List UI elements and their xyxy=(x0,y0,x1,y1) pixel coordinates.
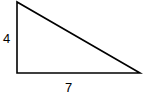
horizontal-side-label: 7 xyxy=(65,80,72,94)
right-triangle xyxy=(17,2,140,73)
vertical-side-label: 4 xyxy=(3,31,10,46)
triangle-diagram: 4 7 xyxy=(0,0,143,94)
